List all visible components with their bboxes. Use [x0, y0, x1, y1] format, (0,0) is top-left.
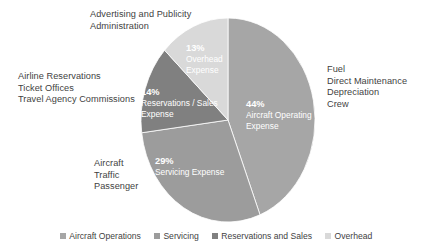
- annotation-servicing-line-1: Aircraft: [94, 158, 138, 170]
- slice-percent-servicing: 29%: [155, 156, 224, 167]
- slice-label-servicing: 29% Servicing Expense: [155, 156, 224, 178]
- slice-label-overhead: 13% Overhead Expense: [186, 43, 223, 75]
- legend-swatch-icon: [154, 233, 160, 239]
- annotation-aircraft-line-2: Direct Maintenance: [327, 76, 407, 88]
- annotation-reservations: Airline Reservations Ticket Offices Trav…: [18, 71, 135, 106]
- slice-name-aircraft-operations-line-2: Expense: [246, 121, 312, 132]
- annotation-aircraft-line-3: Depreciation: [327, 87, 407, 99]
- legend-label: Overhead: [335, 231, 373, 241]
- slice-name-aircraft-operations-line-1: Aircraft Operating: [246, 110, 312, 121]
- annotation-reservations-line-1: Airline Reservations: [18, 71, 135, 83]
- legend-label: Servicing: [163, 231, 198, 241]
- annotation-aircraft-line-1: Fuel: [327, 64, 407, 76]
- legend-swatch-icon: [60, 233, 66, 239]
- legend-item-servicing[interactable]: Servicing: [154, 231, 199, 241]
- slice-label-reservations-and-sales: 14% Reservations / Sales Expense: [141, 87, 218, 119]
- annotation-reservations-line-3: Travel Agency Commissions: [18, 94, 135, 106]
- annotation-servicing: Aircraft Traffic Passenger: [94, 158, 138, 193]
- annotation-servicing-line-2: Traffic: [94, 170, 138, 182]
- legend-label: Reservations and Sales: [221, 231, 312, 241]
- annotation-aircraft-operations: Fuel Direct Maintenance Depreciation Cre…: [327, 64, 407, 110]
- annotation-servicing-line-3: Passenger: [94, 181, 138, 193]
- annotation-aircraft-line-4: Crew: [327, 99, 407, 111]
- legend-item-aircraft-operations[interactable]: Aircraft Operations: [60, 231, 141, 241]
- slice-label-aircraft-operations: 44% Aircraft Operating Expense: [246, 99, 312, 131]
- legend-label: Aircraft Operations: [69, 231, 141, 241]
- legend-swatch-icon: [325, 233, 331, 239]
- chart-legend: Aircraft OperationsServicingReservations…: [0, 231, 432, 241]
- slice-name-reservations-and-sales-line-1: Reservations / Sales: [141, 98, 218, 109]
- annotation-reservations-line-2: Ticket Offices: [18, 83, 135, 95]
- slice-name-overhead-line-2: Expense: [186, 65, 223, 76]
- pie-chart-figure: Advertising and Publicity Administration…: [0, 0, 432, 251]
- legend-item-overhead[interactable]: Overhead: [325, 231, 372, 241]
- legend-swatch-icon: [212, 233, 218, 239]
- slice-percent-reservations-and-sales: 14%: [141, 87, 218, 98]
- slice-name-servicing-line-1: Servicing Expense: [155, 167, 224, 178]
- slice-name-overhead-line-1: Overhead: [186, 54, 223, 65]
- legend-item-reservations-and-sales[interactable]: Reservations and Sales: [212, 231, 312, 241]
- slice-name-reservations-and-sales-line-2: Expense: [141, 109, 218, 120]
- slice-percent-aircraft-operations: 44%: [246, 99, 312, 110]
- slice-percent-overhead: 13%: [186, 43, 223, 54]
